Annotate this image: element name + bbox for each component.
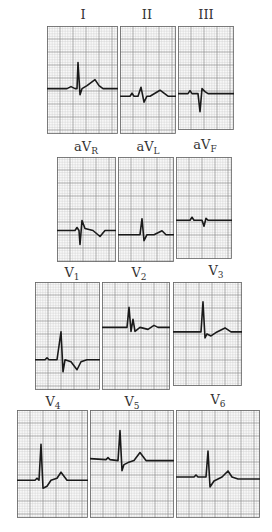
lead-label-aVF: aVF [185,138,225,154]
grid-background [17,410,88,518]
grid-background [47,26,118,134]
ecg-grid-paper [90,410,174,518]
ecg-grid-paper [102,282,170,390]
lead-label-V2: V2 [124,266,154,282]
ecg-panel-V6 [176,410,260,518]
ecg-grid-paper [178,26,234,130]
ecg-grid-paper [47,26,118,134]
lead-label-V4: V4 [38,395,68,411]
lead-label-aVR: aVR [66,140,106,156]
lead-label-aVL: aVL [128,140,168,156]
grid-background [176,157,232,259]
ecg-grid-paper [35,282,100,390]
lead-label-III: III [194,8,218,21]
grid-background [90,410,174,518]
grid-background [176,410,260,518]
ecg-grid-paper [173,282,242,386]
ecg-panel-aVR [57,157,116,262]
ecg-panel-aVL [118,157,174,262]
ecg-panel-V1 [35,282,100,390]
ecg-panel-II [120,26,176,134]
ecg-grid-paper [176,157,232,259]
lead-label-V5: V5 [117,395,147,411]
lead-label-V6: V6 [203,393,233,409]
ecg-panel-III [178,26,234,130]
ecg-panel-I [47,26,118,134]
ecg-panel-V2 [102,282,170,390]
ecg-panel-V3 [173,282,242,386]
ecg-panel-aVF [176,157,232,259]
lead-label-II: II [137,8,157,21]
ecg-grid-paper [176,410,260,518]
ecg-grid-paper [17,410,88,518]
grid-background [120,26,176,134]
lead-label-V3: V3 [201,264,231,280]
ecg-grid-paper [118,157,174,262]
lead-label-V1: V1 [57,266,87,282]
ecg-panel-V4 [17,410,88,518]
ecg-grid-paper [120,26,176,134]
ecg-panel-V5 [90,410,174,518]
grid-background [35,282,100,390]
ecg-grid-paper [57,157,116,262]
lead-label-I: I [73,8,93,21]
